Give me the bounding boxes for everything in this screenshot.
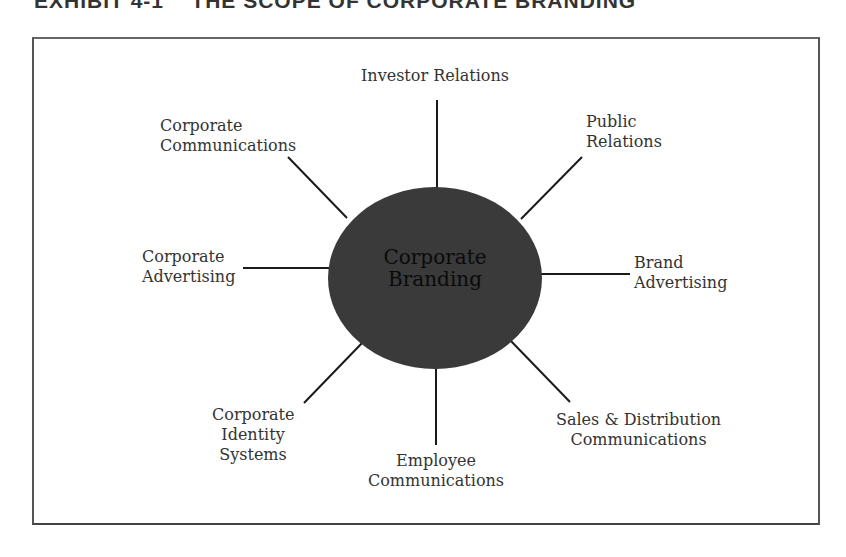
label-brand-advertising: Brand Advertising bbox=[634, 253, 727, 293]
label-corporate-advertising: Corporate Advertising bbox=[142, 247, 235, 287]
label-line: Communications bbox=[160, 136, 296, 156]
label-public-relations: Public Relations bbox=[586, 112, 662, 152]
spoke-line-public bbox=[521, 157, 582, 219]
label-sales-distribution: Sales & Distribution Communications bbox=[556, 410, 721, 450]
label-line: Sales & Distribution bbox=[556, 410, 721, 430]
center-line-2: Branding bbox=[344, 268, 526, 290]
label-line: Public bbox=[586, 112, 662, 132]
label-investor-relations: Investor Relations bbox=[361, 66, 509, 86]
center-label: Corporate Branding bbox=[344, 246, 526, 290]
spoke-line-corp-comm bbox=[288, 157, 347, 218]
label-line: Employee bbox=[363, 451, 509, 471]
center-line-1: Corporate bbox=[344, 246, 526, 268]
label-line: Advertising bbox=[142, 267, 235, 287]
label-corporate-communications: Corporate Communications bbox=[160, 116, 296, 156]
spoke-line-identity bbox=[304, 342, 363, 403]
label-corporate-identity-systems: Corporate Identity Systems bbox=[212, 405, 294, 465]
label-line: Brand bbox=[634, 253, 727, 273]
label-line: Investor Relations bbox=[361, 66, 509, 86]
label-line: Identity bbox=[212, 425, 294, 445]
label-line: Corporate bbox=[160, 116, 296, 136]
label-line: Corporate bbox=[212, 405, 294, 425]
spoke-line-sales bbox=[510, 340, 570, 402]
label-line: Relations bbox=[586, 132, 662, 152]
label-employee-communications: Employee Communications bbox=[363, 451, 509, 491]
label-line: Communications bbox=[556, 430, 721, 450]
label-line: Advertising bbox=[634, 273, 727, 293]
label-line: Communications bbox=[363, 471, 509, 491]
label-line: Corporate bbox=[142, 247, 235, 267]
label-line: Systems bbox=[212, 445, 294, 465]
